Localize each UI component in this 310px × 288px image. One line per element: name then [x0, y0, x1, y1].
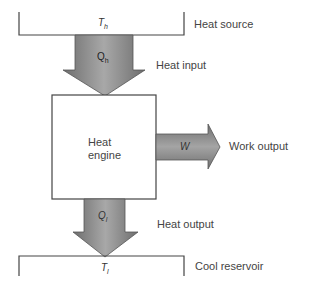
- heat-input-label: Heat input: [156, 59, 206, 71]
- heat-source-label: Heat source: [194, 18, 253, 30]
- heat-output-arrow: [73, 199, 138, 257]
- heat-output-symbol: Ql: [98, 210, 107, 223]
- heat-output-label: Heat output: [157, 218, 214, 230]
- cool-reservoir-label: Cool reservoir: [195, 260, 263, 272]
- work-symbol: W: [180, 141, 189, 152]
- heat-input-symbol: Qh: [97, 51, 109, 64]
- work-output-label: Work output: [229, 140, 288, 152]
- hot-temperature-symbol: Th: [98, 17, 108, 30]
- heat-input-arrow: [63, 35, 145, 96]
- engine-label: Heat engine: [88, 136, 121, 162]
- cool-temperature-symbol: Tl: [101, 262, 109, 275]
